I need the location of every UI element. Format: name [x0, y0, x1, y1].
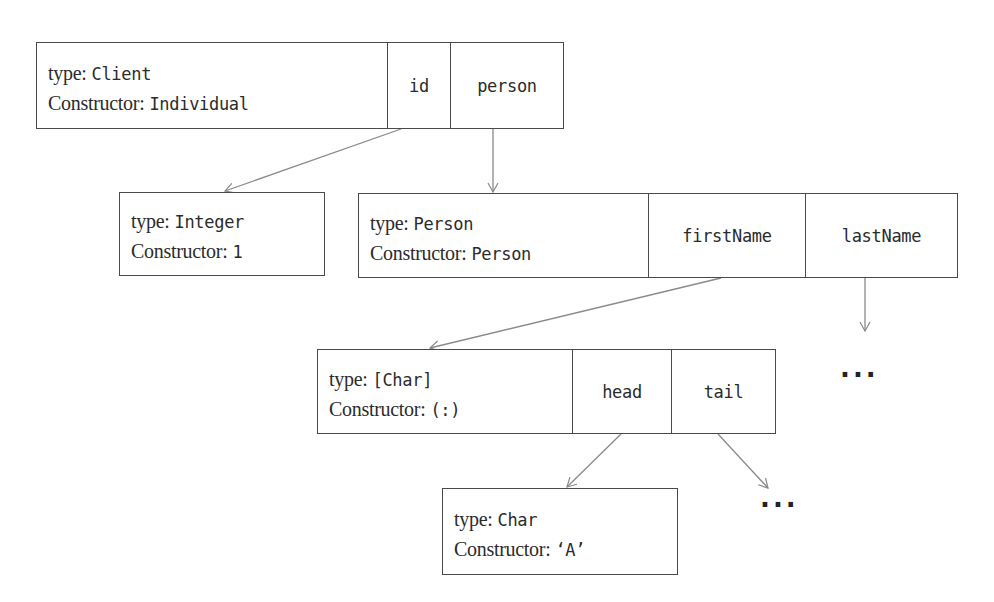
constructor-value: Person	[471, 244, 531, 264]
node-char: type: Char Constructor: ‘A’	[442, 488, 678, 575]
constructor-label: Constructor:	[454, 538, 550, 560]
node-char-list-description: type: [Char] Constructor: (:)	[318, 350, 572, 433]
type-label: type:	[329, 368, 368, 390]
type-label: type:	[454, 508, 493, 530]
type-label: type:	[48, 62, 87, 84]
edge-tail-to-ellipsis	[718, 434, 768, 488]
type-value: Client	[92, 64, 152, 84]
node-integer-description: type: Integer Constructor: 1	[120, 193, 324, 275]
field-id: id	[387, 43, 450, 128]
node-char-description: type: Char Constructor: ‘A’	[443, 489, 677, 574]
field-person: person	[450, 43, 563, 128]
node-char-list: type: [Char] Constructor: (:) head tail	[317, 349, 776, 434]
edge-head-to-char	[567, 434, 621, 487]
type-label: type:	[131, 210, 170, 232]
ellipsis-lastname-target: ...	[840, 358, 879, 378]
node-person: type: Person Constructor: Person firstNa…	[358, 193, 958, 278]
field-firstname: firstName	[648, 194, 805, 277]
ellipsis-tail-target: ...	[760, 488, 799, 508]
type-value: Char	[498, 510, 538, 530]
field-tail: tail	[671, 350, 775, 433]
field-head: head	[572, 350, 671, 433]
node-person-description: type: Person Constructor: Person	[359, 194, 648, 277]
node-client: type: Client Constructor: Individual id …	[36, 42, 564, 129]
constructor-value: Individual	[149, 94, 248, 114]
field-lastname: lastName	[805, 194, 957, 277]
constructor-label: Constructor:	[48, 92, 144, 114]
node-client-description: type: Client Constructor: Individual	[37, 43, 387, 128]
memory-layout-diagram: type: Client Constructor: Individual id …	[0, 0, 994, 602]
type-value: Person	[414, 214, 474, 234]
type-value: Integer	[175, 212, 245, 232]
constructor-value: 1	[232, 242, 242, 262]
type-label: type:	[370, 212, 409, 234]
constructor-value: (:)	[430, 400, 460, 420]
edge-firstname-to-charlist	[430, 278, 721, 348]
edge-id-to-integer	[225, 129, 401, 191]
constructor-label: Constructor:	[131, 240, 227, 262]
constructor-value: ‘A’	[555, 540, 585, 560]
constructor-label: Constructor:	[370, 242, 466, 264]
constructor-label: Constructor:	[329, 398, 425, 420]
type-value: [Char]	[373, 370, 433, 390]
node-integer: type: Integer Constructor: 1	[119, 192, 325, 276]
